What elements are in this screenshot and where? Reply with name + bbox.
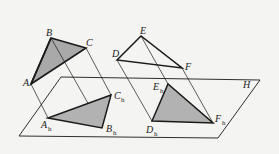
label-b: B bbox=[46, 27, 52, 38]
label-e: E bbox=[139, 25, 146, 36]
label-a: A bbox=[22, 77, 30, 88]
label-bh-sub: h bbox=[113, 129, 117, 137]
label-eh-sub: h bbox=[160, 87, 164, 95]
label-ah-sub: h bbox=[48, 125, 52, 133]
projector-c bbox=[86, 48, 111, 95]
label-ch-sub: h bbox=[121, 96, 125, 104]
projector-a bbox=[31, 84, 48, 118]
projection-diagram: B C A A h B h C h D E F E h D h F h H bbox=[0, 0, 279, 154]
label-dh: D bbox=[145, 124, 154, 135]
projector-d bbox=[117, 60, 152, 121]
label-ah: A bbox=[40, 119, 48, 130]
triangle-abc-projection bbox=[48, 95, 111, 128]
projector-e bbox=[141, 36, 168, 84]
label-plane-h: H bbox=[242, 79, 251, 90]
label-d: D bbox=[111, 48, 120, 59]
label-eh: E bbox=[152, 81, 159, 92]
label-c: C bbox=[86, 37, 93, 48]
label-ch: C bbox=[114, 90, 121, 101]
label-bh: B bbox=[106, 123, 112, 134]
plane-h bbox=[19, 77, 260, 138]
label-dh-sub: h bbox=[154, 130, 158, 138]
label-fh-sub: h bbox=[222, 119, 226, 127]
label-f: F bbox=[184, 61, 192, 72]
triangle-def bbox=[117, 36, 182, 68]
label-fh: F bbox=[214, 113, 222, 124]
